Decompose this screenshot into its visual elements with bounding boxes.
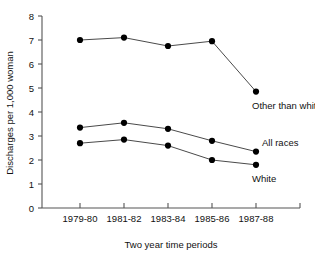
data-point — [253, 162, 259, 168]
data-point — [77, 37, 83, 43]
data-point — [77, 140, 83, 146]
x-tick-label: 1979-80 — [63, 213, 98, 224]
y-tick-label: 1 — [29, 179, 34, 190]
x-axis-tick-labels: 1979-801981-821983-841985-861987-88 — [63, 213, 274, 224]
x-tick-label: 1987-88 — [239, 213, 274, 224]
y-tick-label: 5 — [29, 83, 34, 94]
data-point — [209, 157, 215, 163]
chart-figure: Discharges per 1,000 woman 012345678 197… — [0, 0, 315, 256]
data-point — [121, 35, 127, 41]
y-tick-label: 0 — [29, 203, 34, 214]
data-point — [77, 125, 83, 131]
data-point — [209, 38, 215, 44]
x-tick-label: 1981-82 — [107, 213, 142, 224]
series-label: Other than white — [252, 100, 315, 111]
x-tick-label: 1985-86 — [195, 213, 230, 224]
y-tick-label: 6 — [29, 59, 34, 70]
y-tick-label: 3 — [29, 131, 34, 142]
data-point — [121, 120, 127, 126]
series-label: All races — [262, 137, 299, 148]
x-tick-label: 1983-84 — [151, 213, 186, 224]
data-point — [253, 149, 259, 155]
series-label: White — [252, 173, 276, 184]
y-axis-title: Discharges per 1,000 woman — [4, 51, 15, 175]
data-point — [165, 126, 171, 132]
data-point — [121, 137, 127, 143]
y-tick-label: 8 — [29, 11, 34, 22]
data-point — [165, 43, 171, 49]
y-tick-label: 7 — [29, 35, 34, 46]
data-point — [253, 89, 259, 95]
y-axis-tick-labels: 012345678 — [29, 11, 34, 214]
data-point — [165, 143, 171, 149]
y-tick-label: 2 — [29, 155, 34, 166]
y-tick-label: 4 — [29, 107, 34, 118]
x-axis-title: Two year time periods — [125, 239, 218, 250]
data-point — [209, 138, 215, 144]
line-chart-canvas: Discharges per 1,000 woman 012345678 197… — [0, 0, 315, 256]
